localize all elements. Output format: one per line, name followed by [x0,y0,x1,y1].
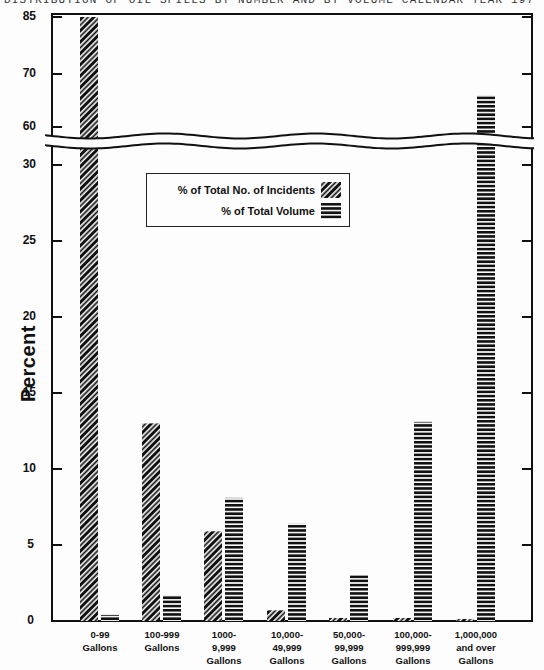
bar-chart [0,0,544,670]
legend-item-volume: % of Total Volume [221,203,341,219]
bar-incidents-1 [142,423,160,621]
y-tick-label: 30 [6,157,36,171]
bar-volume-3 [288,524,306,621]
y-tick-label: 85 [6,9,36,23]
bar-volume-5 [414,422,432,621]
x-tick-label: 0-99Gallons [65,628,135,654]
y-tick-label: 5 [4,537,34,551]
bar-volume-0 [101,615,119,621]
x-tick-label: 50,000-99,999Gallons [314,628,384,667]
y-tick-label: 25 [6,233,36,247]
x-tick-label: 1000-9,999Gallons [189,628,259,667]
bar-incidents-3 [267,610,285,621]
bar-incidents-2 [204,531,222,621]
x-tick-label: 1,000,000and overGallons [441,628,511,667]
x-tick-label: 100-999Gallons [127,628,197,654]
y-tick-label: 0 [4,613,34,627]
y-tick-label: 70 [6,66,36,80]
bar-incidents-6 [456,619,474,621]
bar-volume-1 [163,595,181,621]
x-tick-label: 10,000-49,999Gallons [252,628,322,667]
legend: % of Total No. of Incidents % of Total V… [146,173,350,227]
bar-volume-6 [477,95,495,621]
y-tick-label: 60 [6,119,36,133]
legend-item-incidents: % of Total No. of Incidents [178,182,341,198]
legend-label-volume: % of Total Volume [221,205,315,217]
horizontal-stripes-icon [321,203,341,219]
x-tick-label: 100,000-999,999Gallons [378,628,448,667]
bar-incidents-0 [80,17,98,621]
bars [80,17,495,621]
bar-volume-4 [350,575,368,621]
bar-incidents-4 [329,618,347,621]
bar-volume-2 [225,498,243,621]
legend-label-incidents: % of Total No. of Incidents [178,184,315,196]
diagonal-hatch-icon [321,182,341,198]
bar-incidents-5 [393,618,411,621]
y-tick-label: 10 [6,461,36,475]
y-axis-label: Percent [17,314,40,414]
axis-break [46,134,536,149]
